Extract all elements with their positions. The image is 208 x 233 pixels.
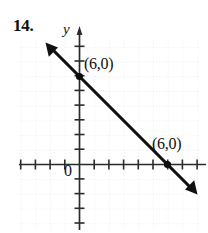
y-axis-label: y xyxy=(63,22,70,37)
point-marker-y-intercept xyxy=(76,73,83,80)
point-label-y-intercept: (6,0) xyxy=(84,56,113,72)
graph-figure: 14. y 0 (6,0) (6,0) xyxy=(0,0,208,233)
y-axis-arrowhead xyxy=(77,26,83,35)
problem-number: 14. xyxy=(13,17,34,34)
point-marker-x-intercept xyxy=(164,161,171,168)
origin-label: 0 xyxy=(64,163,72,179)
point-label-x-intercept: (6,0) xyxy=(152,136,181,152)
